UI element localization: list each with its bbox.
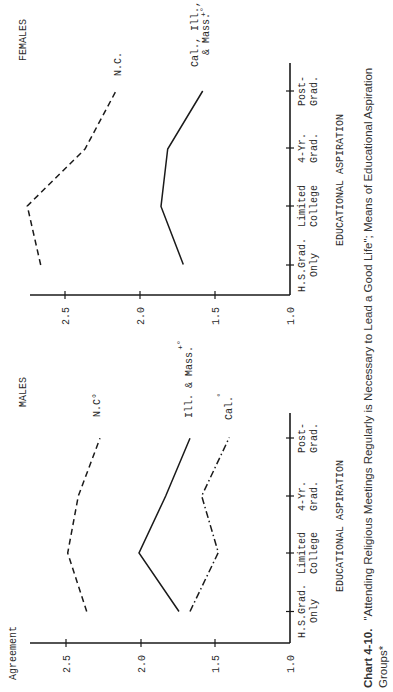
females-x-axis-title: EDUCATIONAL ASPIRATION — [335, 114, 346, 246]
svg-text:H.S.Grad.: H.S.Grad. — [297, 238, 308, 292]
males-label-cal: Cal. ° — [216, 393, 235, 420]
females-category-labels: H.S.Grad. Only Limited College 4-Yr. Gra… — [297, 76, 320, 292]
females-tick-2-0: 2.0 — [136, 307, 147, 325]
svg-text:Only: Only — [309, 253, 320, 277]
svg-text:Ill. & Mass.: Ill. & Mass. — [184, 346, 195, 418]
males-label-ill-mass: Ill. & Mass. +° — [176, 340, 195, 418]
svg-text:+°: +° — [176, 340, 185, 350]
svg-text:Grad.: Grad. — [309, 133, 320, 163]
svg-text:Limited: Limited — [297, 185, 308, 227]
svg-text:Grad.: Grad. — [309, 481, 320, 511]
svg-text:Chart 4-10."Attending Religiou: Chart 4-10."Attending Religious Meetings… — [362, 68, 374, 688]
males-tick-2-0: 2.0 — [137, 655, 148, 673]
svg-text:Cal.: Cal. — [224, 396, 235, 420]
chart-figure: FEMALES 2.5 2.0 1.5 1.0 H.S.Grad. Only L… — [0, 0, 393, 692]
svg-text:4-Yr.: 4-Yr. — [297, 133, 308, 163]
males-panel: MALES 2.5 2.0 1.5 1.0 H.S.Grad. Only Lim… — [18, 340, 346, 673]
caption-label: Chart 4-10. — [362, 629, 374, 688]
males-series-cal — [190, 438, 229, 612]
svg-text:4-Yr.: 4-Yr. — [297, 481, 308, 511]
females-series-cal-ill-mass — [161, 91, 203, 265]
svg-text:Grad.: Grad. — [309, 423, 320, 453]
svg-text:Grad.: Grad. — [309, 76, 320, 106]
svg-text:+°: +° — [199, 7, 208, 17]
caption-text-line2: Groups* — [377, 645, 389, 688]
svg-text:Only: Only — [309, 599, 320, 623]
males-label-nc: N.C° — [92, 393, 103, 417]
svg-text:College: College — [309, 185, 320, 227]
males-series-nc — [68, 438, 100, 611]
svg-text:College: College — [309, 532, 320, 574]
females-series-nc — [27, 92, 115, 266]
females-title: FEMALES — [18, 19, 29, 61]
agreement-label: Agreement — [8, 626, 19, 680]
females-tick-1-0: 1.0 — [286, 307, 297, 325]
svg-text:Post-: Post- — [297, 423, 308, 453]
males-tick-1-5: 1.5 — [211, 655, 222, 673]
males-title: MALES — [18, 377, 29, 407]
females-label-nc: N.C. — [113, 52, 124, 76]
svg-text:H.S.Grad.: H.S.Grad. — [297, 584, 308, 638]
males-category-labels: H.S.Grad. Only Limited College 4-Yr. Gra… — [297, 423, 320, 638]
svg-text:°: ° — [216, 393, 225, 398]
females-tick-1-5: 1.5 — [211, 307, 222, 325]
svg-text:Limited: Limited — [297, 532, 308, 574]
svg-text:& Mass.: & Mass. — [201, 13, 212, 55]
males-x-axis-title: EDUCATIONAL ASPIRATION — [335, 460, 346, 592]
males-tick-2-5: 2.5 — [62, 655, 73, 673]
females-label-combined: Cal., Ill., & Mass. +° — [190, 1, 212, 67]
females-tick-2-5: 2.5 — [61, 307, 72, 325]
females-panel: FEMALES 2.5 2.0 1.5 1.0 H.S.Grad. Only L… — [18, 1, 346, 325]
figure-caption: Chart 4-10."Attending Religious Meetings… — [362, 68, 389, 688]
agreement-scale-label: Agreement — [8, 372, 19, 680]
males-value-ticks: 2.5 2.0 1.5 1.0 — [62, 639, 297, 673]
svg-text:Post-: Post- — [297, 76, 308, 106]
females-value-ticks: 2.5 2.0 1.5 1.0 — [61, 291, 297, 325]
males-series-ill-mass — [139, 438, 190, 611]
caption-text: "Attending Religious Meetings Regularly … — [362, 68, 374, 621]
males-tick-1-0: 1.0 — [286, 655, 297, 673]
